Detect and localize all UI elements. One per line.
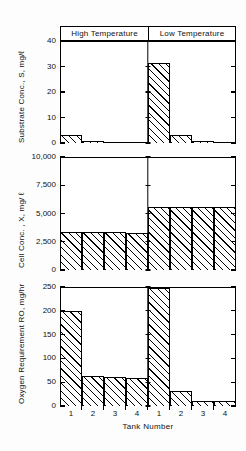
x-tick-label-6: 3 <box>192 409 214 418</box>
y-tick-label: 150 <box>43 331 56 339</box>
bar-slot <box>170 157 192 270</box>
bar-cell-concentration-high-tank-2 <box>82 232 104 270</box>
x-tick-label-2: 3 <box>104 409 126 418</box>
bar-group-cell <box>60 157 236 270</box>
y-tick-label: 40 <box>47 37 56 45</box>
bar-slot <box>104 287 126 406</box>
bar-slot <box>192 157 214 270</box>
bar-slot <box>104 41 126 143</box>
y-tick-label: 200 <box>43 307 56 315</box>
x-tick-label-4: 1 <box>148 409 170 418</box>
bar-cell-concentration-high-tank-4 <box>126 233 148 270</box>
bar-slot <box>214 287 236 406</box>
y-tick-label: 10 <box>47 114 56 122</box>
bar-oxygen-requirement-low-tank-2 <box>170 391 192 406</box>
y-axis-labels-cell: 02,5005,0007,50010,000 <box>0 157 58 270</box>
bar-slot <box>60 287 82 406</box>
y-tick-label: 20 <box>47 88 56 96</box>
y-tick-label: 10,000 <box>32 153 56 161</box>
y-tick-label: 0 <box>52 402 56 410</box>
bar-slot <box>148 157 170 270</box>
panel-substrate-concentration <box>60 41 236 143</box>
bar-slot <box>214 41 236 143</box>
group-title-low-temperature: Low Temperature <box>148 27 235 40</box>
bar-substrate-concentration-high-tank-1 <box>60 135 82 143</box>
bar-slot <box>126 157 148 270</box>
bar-oxygen-requirement-low-tank-1 <box>148 288 170 406</box>
y-tick-label: 30 <box>47 63 56 71</box>
bar-group-oxygen <box>60 287 236 406</box>
bar-substrate-concentration-high-tank-4 <box>126 142 148 143</box>
x-tick-label-7: 4 <box>214 409 236 418</box>
y-tick-label: 0 <box>52 266 56 274</box>
bar-slot <box>148 41 170 143</box>
bar-slot <box>82 157 104 270</box>
bar-slot <box>60 41 82 143</box>
bar-oxygen-requirement-high-tank-3 <box>104 377 126 406</box>
panel-oxygen-requirement <box>60 287 236 406</box>
bar-substrate-concentration-low-tank-1 <box>148 63 170 143</box>
bar-oxygen-requirement-high-tank-1 <box>60 311 82 406</box>
x-tick-label-3: 4 <box>126 409 148 418</box>
bar-cell-concentration-low-tank-1 <box>148 207 170 270</box>
bar-slot <box>192 287 214 406</box>
bar-cell-concentration-low-tank-4 <box>214 207 236 270</box>
bar-slot <box>214 157 236 270</box>
bar-oxygen-requirement-high-tank-4 <box>126 378 148 406</box>
panel-cell-concentration <box>60 157 236 270</box>
y-axis-title-substrate: Substrate Conc., S, mg/ℓ <box>17 51 26 143</box>
bar-substrate-concentration-high-tank-2 <box>82 141 104 143</box>
group-title-high-temperature: High Temperature <box>61 27 148 40</box>
bar-slot <box>192 41 214 143</box>
y-tick-label: 250 <box>43 283 56 291</box>
bar-group-substrate <box>60 41 236 143</box>
bar-slot <box>126 41 148 143</box>
bar-cell-concentration-low-tank-3 <box>192 207 214 270</box>
bar-substrate-concentration-low-tank-3 <box>192 141 214 143</box>
bar-cell-concentration-high-tank-3 <box>104 232 126 270</box>
bar-substrate-concentration-high-tank-3 <box>104 142 126 143</box>
chart-figure: High Temperature Low Temperature 0102030… <box>0 0 246 451</box>
y-axis-title-cell: Cell Conc. , X, mg/ ℓ <box>17 192 26 268</box>
y-tick-label: 7,500 <box>36 181 56 189</box>
bar-substrate-concentration-low-tank-4 <box>214 142 236 143</box>
y-tick-label: 5,000 <box>36 210 56 218</box>
x-tick-label-1: 2 <box>82 409 104 418</box>
bar-cell-concentration-low-tank-2 <box>170 207 192 270</box>
bar-slot <box>60 157 82 270</box>
y-axis-labels-oxygen: 050100150200250 <box>0 287 58 406</box>
bar-slot <box>104 157 126 270</box>
bar-slot <box>82 41 104 143</box>
y-tick-label: 2,500 <box>36 238 56 246</box>
x-axis-tick-labels: 12341234 <box>60 409 236 418</box>
y-axis-title-oxygen: Oxygen Requirement RO, mg/hr <box>17 284 26 404</box>
group-header-strip: High Temperature Low Temperature <box>60 26 236 41</box>
x-tick-label-5: 2 <box>170 409 192 418</box>
x-axis-title: Tank Number <box>60 422 236 431</box>
y-tick-label: 50 <box>47 378 56 386</box>
bar-substrate-concentration-low-tank-2 <box>170 135 192 143</box>
bar-cell-concentration-high-tank-1 <box>60 232 82 270</box>
bar-slot <box>170 287 192 406</box>
y-tick-label: 100 <box>43 354 56 362</box>
bar-oxygen-requirement-high-tank-2 <box>82 376 104 406</box>
bar-oxygen-requirement-low-tank-3 <box>192 401 214 406</box>
bar-slot <box>170 41 192 143</box>
bar-slot <box>148 287 170 406</box>
y-tick-label: 0 <box>52 139 56 147</box>
x-tick-label-0: 1 <box>60 409 82 418</box>
bar-slot <box>126 287 148 406</box>
y-axis-labels-substrate: 010203040 <box>0 41 58 143</box>
bar-oxygen-requirement-low-tank-4 <box>214 401 236 406</box>
bar-slot <box>82 287 104 406</box>
